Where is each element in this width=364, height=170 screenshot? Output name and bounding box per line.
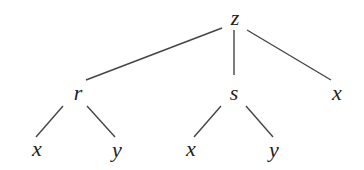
- node-z: z: [231, 7, 240, 29]
- node-x2: x: [32, 138, 42, 160]
- node-r: r: [74, 82, 83, 104]
- edge-z-r: [86, 28, 222, 80]
- edge-r-y1: [87, 106, 115, 137]
- tree-diagram: zrsxxyxy: [0, 0, 364, 170]
- edge-s-x3: [194, 106, 221, 137]
- node-x3: x: [186, 138, 196, 160]
- node-y1: y: [112, 139, 122, 161]
- node-y2: y: [269, 139, 279, 161]
- edge-r-x2: [36, 106, 63, 137]
- node-x1: x: [332, 82, 342, 104]
- edge-s-y2: [246, 106, 273, 137]
- edge-z-x1: [247, 30, 331, 80]
- node-s: s: [230, 82, 239, 104]
- tree-edges: [0, 0, 364, 170]
